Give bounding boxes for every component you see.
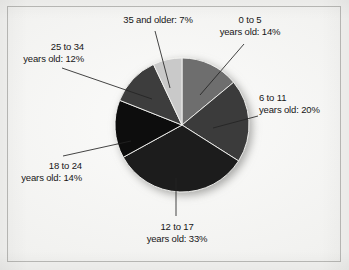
slice-label-age-6-11: 6 to 11 years old: 20% (259, 92, 347, 115)
slice-label-age-35-older-line1: 35 and older: 7% (123, 14, 192, 25)
slice-label-age-25-34: 25 to 34 years old: 12% (0, 41, 84, 64)
slice-label-age-6-11-line1: 6 to 11 (259, 92, 286, 103)
slice-label-age-12-17: 12 to 17 years old: 33% (131, 221, 223, 244)
slice-label-age-0-5-line2: years old: 14% (205, 26, 295, 38)
slice-label-age-12-17-line2: years old: 33% (131, 233, 223, 245)
pie-slices-group (115, 58, 249, 192)
slice-label-age-18-24-line1: 18 to 24 (49, 160, 82, 171)
slice-label-age-6-11-line2: years old: 20% (259, 104, 347, 116)
slice-label-age-0-5-line1: 0 to 5 (239, 14, 262, 25)
slice-label-age-18-24: 18 to 24 years old: 14% (0, 160, 82, 183)
slice-label-age-18-24-line2: years old: 14% (0, 172, 82, 184)
slice-label-age-25-34-line1: 25 to 34 (51, 41, 84, 52)
slice-label-age-25-34-line2: years old: 12% (0, 53, 84, 65)
pie-chart-figure: 35 and older: 7% 0 to 5 years old: 14% 6… (0, 0, 349, 270)
slice-label-age-12-17-line1: 12 to 17 (160, 221, 193, 232)
slice-label-age-35-older: 35 and older: 7% (113, 14, 203, 26)
slice-label-age-0-5: 0 to 5 years old: 14% (205, 14, 295, 37)
